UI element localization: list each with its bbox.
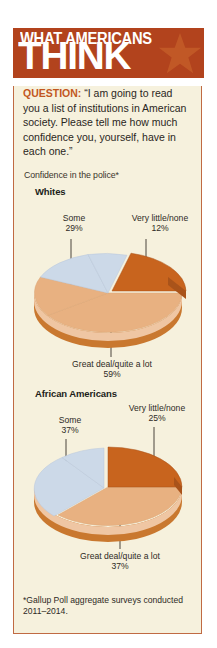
question-paragraph: QUESTION: “I am going to read you a list… — [23, 86, 192, 159]
pie-chart-whites: Some 29% Very little/none 12% Great deal… — [14, 197, 203, 382]
infographic-header: WHAT AMERICANS THINK — [13, 28, 204, 78]
question-label: QUESTION: — [23, 87, 81, 99]
label-some-whites: Some 29% — [44, 213, 104, 234]
infographic-body: QUESTION: “I am going to read you a list… — [13, 86, 202, 634]
infographic-panel: WHAT AMERICANS THINK QUESTION: “I am goi… — [13, 28, 204, 628]
label-some-african-americans: Some 37% — [40, 415, 100, 436]
label-great-deal-african-americans: Great deal/quite a lot 37% — [70, 551, 170, 572]
star-icon — [158, 32, 202, 76]
header-kicker: WHAT AMERICANS — [20, 31, 152, 47]
footnote: *Gallup Poll aggregate surveys conducted… — [23, 595, 192, 618]
chart-title-african-americans: African Americans — [35, 388, 201, 399]
chart-title-whites: Whites — [35, 186, 201, 197]
pie-chart-african-americans: Some 37% Very little/none 25% Great deal… — [14, 399, 203, 581]
label-very-little-african-americans: Very little/none 25% — [114, 403, 200, 424]
label-very-little-whites: Very little/none 12% — [118, 213, 202, 234]
section-caption: Confidence in the police* — [24, 170, 201, 180]
label-great-deal-whites: Great deal/quite a lot 59% — [62, 359, 162, 380]
